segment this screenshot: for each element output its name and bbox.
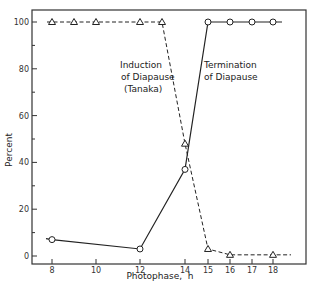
induction-line [47, 22, 291, 255]
annotation-termination-line-1: Termination [203, 60, 257, 70]
y-tick-label: 0 [24, 252, 29, 261]
plot-frame [32, 10, 306, 264]
y-tick-label: 60 [19, 112, 29, 121]
y-tick-label: 40 [19, 158, 29, 167]
x-tick-label: 8 [49, 266, 54, 275]
annotation-induction-line-2: of Diapause [121, 72, 175, 82]
triangle-marker [270, 251, 277, 257]
chart: 020406080100 810121415161718 Percent Pho… [0, 0, 312, 286]
x-tick-label: 16 [225, 266, 235, 275]
triangle-marker [137, 19, 144, 25]
annotation-induction-line-1: Induction [120, 60, 162, 70]
circle-marker [205, 19, 211, 25]
x-tick-label: 10 [91, 266, 101, 275]
circle-marker [249, 19, 255, 25]
circle-marker [49, 237, 55, 243]
annotation-induction-line-3: (Tanaka) [124, 84, 162, 94]
series-layer [46, 19, 291, 258]
circle-marker [270, 19, 276, 25]
x-axis-title: Photophase, h [126, 271, 193, 281]
circle-marker [182, 166, 188, 172]
circle-marker [137, 246, 143, 252]
circle-marker [227, 19, 233, 25]
x-tick-label: 17 [247, 266, 257, 275]
y-tick-label: 20 [19, 205, 29, 214]
y-axis: 020406080100 [14, 18, 37, 261]
annotation-termination-line-2: of Diapause [204, 72, 258, 82]
x-tick-label: 15 [203, 266, 213, 275]
triangle-marker [205, 245, 212, 251]
y-tick-label: 80 [19, 65, 29, 74]
y-axis-title: Percent [4, 133, 14, 167]
y-tick-label: 100 [14, 18, 29, 27]
annotation-induction: Induction of Diapause (Tanaka) [120, 60, 175, 94]
termination-line [46, 22, 282, 249]
triangle-marker [182, 140, 189, 146]
annotation-termination: Termination of Diapause [203, 60, 258, 82]
x-tick-label: 18 [268, 266, 278, 275]
